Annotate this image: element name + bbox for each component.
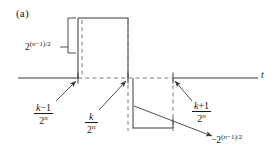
haar-wavelet-figure: (a) t 2(n−1)/2 k−1 2n k 2n k [0,0,275,157]
k-plus-1-numerator-term: 1 [204,100,209,111]
tick-label-k: k 2n [85,112,98,135]
negative-amplitude-exp-close: )/2 [234,133,242,141]
positive-pulse [78,18,129,78]
negative-amplitude-label: −2(n−1)/2 [211,134,242,146]
amplitude-exp-close: )/2 [43,40,51,48]
positive-amplitude-label: 2(n−1)/2 [25,41,51,53]
tick-leader-arrows [56,81,192,110]
k-minus-1-numerator-term: 1 [46,102,51,113]
panel-tag: (a) [16,8,29,19]
arrow-to-k-minus-1 [56,81,76,101]
axis-variable-label: t [261,70,264,80]
arrow-to-k [99,81,126,110]
tick-label-k-minus-1: k−1 2n [34,103,53,126]
negative-pulse [133,78,174,129]
k-plus-1-denominator-power: n [202,112,206,120]
arrow-to-k-plus-1 [175,81,192,101]
amplitude-bracket [60,18,76,53]
k-numerator-k: k [89,111,93,122]
tick-label-k-plus-1: k+1 2n [192,101,211,124]
k-minus-1-denominator-power: n [44,114,48,122]
k-denominator-power: n [92,123,96,131]
